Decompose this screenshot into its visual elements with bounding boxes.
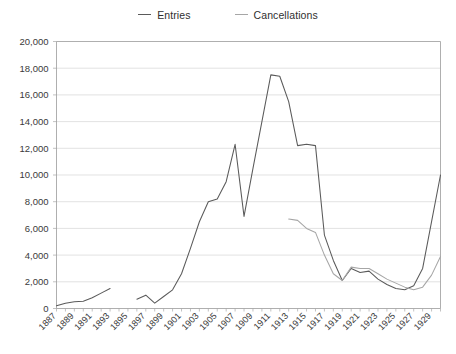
x-tick-label: 1907 xyxy=(215,311,236,332)
x-tick-label: 1925 xyxy=(376,311,397,332)
y-tick-label: 0 xyxy=(43,303,48,314)
y-tick-label: 4,000 xyxy=(25,250,49,261)
x-tick-labels: 1887188918911893189518971899190119031905… xyxy=(37,311,433,332)
y-tick-label: 14,000 xyxy=(19,116,48,127)
x-tick-label: 1909 xyxy=(233,311,254,332)
y-tick-label: 12,000 xyxy=(19,143,48,154)
x-tick-label: 1911 xyxy=(251,311,272,332)
data-series xyxy=(57,75,441,306)
series-line-entries xyxy=(57,75,441,306)
x-tick-label: 1895 xyxy=(108,311,129,332)
x-tick-label: 1891 xyxy=(72,311,93,332)
plot-area: 02,0004,0006,0008,00010,00012,00014,0001… xyxy=(0,0,456,354)
x-tick-label: 1915 xyxy=(287,311,308,332)
x-tick-marks xyxy=(57,309,441,312)
x-tick-label: 1929 xyxy=(412,311,433,332)
x-tick-label: 1893 xyxy=(90,311,111,332)
plot-svg: 02,0004,0006,0008,00010,00012,00014,0001… xyxy=(0,0,456,354)
x-tick-label: 1901 xyxy=(162,311,183,332)
gridlines xyxy=(53,42,441,309)
x-tick-label: 1913 xyxy=(269,311,290,332)
x-tick-label: 1927 xyxy=(394,311,415,332)
x-tick-label: 1897 xyxy=(126,311,147,332)
series-line-cancellations xyxy=(289,219,441,290)
y-tick-label: 10,000 xyxy=(19,169,48,180)
x-tick-label: 1899 xyxy=(144,311,165,332)
x-tick-label: 1905 xyxy=(197,311,218,332)
x-tick-label: 1919 xyxy=(322,311,343,332)
x-tick-label: 1921 xyxy=(340,311,361,332)
y-tick-label: 8,000 xyxy=(25,196,49,207)
x-tick-label: 1887 xyxy=(37,311,58,332)
x-tick-label: 1917 xyxy=(305,311,326,332)
y-tick-label: 20,000 xyxy=(19,36,48,47)
x-tick-label: 1923 xyxy=(358,311,379,332)
y-tick-label: 16,000 xyxy=(19,89,48,100)
y-tick-labels: 02,0004,0006,0008,00010,00012,00014,0001… xyxy=(19,36,48,314)
x-tick-label: 1889 xyxy=(55,311,76,332)
x-tick-label: 1903 xyxy=(180,311,201,332)
line-chart: Entries Cancellations 02,0004,0006,0008,… xyxy=(0,0,456,354)
y-tick-label: 18,000 xyxy=(19,63,48,74)
y-tick-label: 6,000 xyxy=(25,223,49,234)
y-tick-label: 2,000 xyxy=(25,276,49,287)
